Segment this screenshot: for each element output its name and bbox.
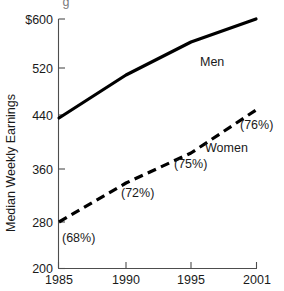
annotation-75-percent: (75%) [174, 157, 207, 171]
y-tick-label-600: $600 [25, 13, 53, 27]
annotation-76-percent: (76%) [240, 118, 273, 132]
x-tick-label-1990: 1990 [112, 273, 140, 287]
y-tick-label-360: 360 [32, 163, 53, 177]
series-line-women [59, 110, 256, 222]
y-tick-label-520: 520 [32, 62, 53, 76]
series-line-men [59, 19, 256, 118]
series-label-women: Women [205, 141, 248, 155]
clipped-title-remnant: g [63, 0, 70, 9]
x-tick-label-2001: 2001 [243, 273, 271, 287]
series-label-men: Men [200, 55, 224, 69]
x-tick-label-1995: 1995 [177, 273, 205, 287]
x-tick-label-1985: 1985 [45, 273, 73, 287]
annotation-68-percent: (68%) [62, 231, 95, 245]
y-tick-label-440: 440 [32, 109, 53, 123]
chart-figure: g $600 520 440 360 280 200 Median Weekly… [0, 0, 284, 291]
annotation-72-percent: (72%) [121, 186, 154, 200]
line-chart: g $600 520 440 360 280 200 Median Weekly… [0, 0, 284, 291]
y-axis-title: Median Weekly Earnings [4, 94, 18, 232]
y-tick-label-280: 280 [32, 216, 53, 230]
